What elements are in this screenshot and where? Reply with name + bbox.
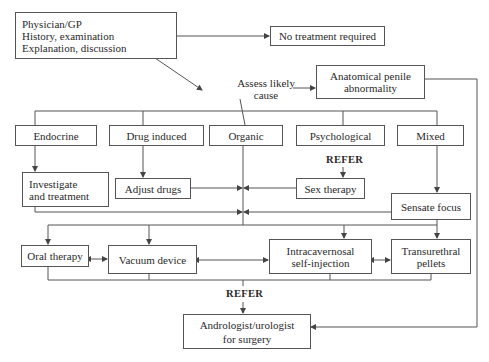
vacuum-device-text: Vacuum device	[119, 254, 187, 266]
psychological-box: Psychological	[296, 125, 385, 146]
vacuum-device-box: Vacuum device	[108, 245, 197, 274]
mixed-text: Mixed	[416, 130, 445, 142]
anatomical-text: Anatomical penile abnormality	[330, 70, 411, 94]
investigate-box: Investigate and treatment	[22, 172, 109, 207]
drug-induced-text: Drug induced	[126, 130, 186, 142]
intracavernosal-box: Intracavernosal self-injection	[269, 239, 372, 274]
adjust-drugs-text: Adjust drugs	[125, 183, 182, 195]
intracavernosal-text: Intracavernosal self-injection	[287, 245, 355, 269]
endocrine-text: Endocrine	[33, 130, 78, 142]
transurethral-text: Transurethral pellets	[402, 245, 461, 269]
organic-text: Organic	[228, 130, 263, 142]
sex-therapy-box: Sex therapy	[296, 178, 365, 199]
refer-label-psych: REFER	[326, 154, 363, 165]
assess-cause-label: Assess likely cause	[232, 77, 300, 101]
drug-induced-box: Drug induced	[109, 125, 204, 146]
adjust-drugs-box: Adjust drugs	[115, 178, 191, 199]
investigate-text: Investigate and treatment	[29, 178, 89, 202]
physician-text: Physician/GP History, examination Explan…	[22, 18, 127, 54]
physician-box: Physician/GP History, examination Explan…	[15, 12, 177, 59]
no-treatment-text: No treatment required	[279, 30, 376, 42]
transurethral-box: Transurethral pellets	[391, 239, 471, 274]
oral-therapy-text: Oral therapy	[27, 250, 82, 262]
psychological-text: Psychological	[310, 130, 372, 142]
no-treatment-box: No treatment required	[270, 26, 385, 46]
anatomical-box: Anatomical penile abnormality	[316, 65, 425, 99]
mixed-box: Mixed	[397, 125, 464, 146]
andrologist-text: Andrologist/urologist for surgery	[200, 318, 295, 346]
organic-box: Organic	[209, 125, 283, 146]
oral-therapy-box: Oral therapy	[21, 245, 89, 267]
sensate-focus-text: Sensate focus	[401, 201, 461, 213]
sensate-focus-box: Sensate focus	[391, 193, 471, 220]
refer-label-surgery: REFER	[226, 288, 263, 299]
sex-therapy-text: Sex therapy	[304, 183, 356, 195]
endocrine-box: Endocrine	[15, 125, 97, 146]
andrologist-box: Andrologist/urologist for surgery	[183, 314, 311, 349]
